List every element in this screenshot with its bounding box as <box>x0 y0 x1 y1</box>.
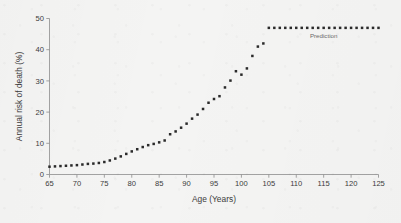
x-tick-label: 85 <box>155 179 163 188</box>
data-point <box>317 27 320 30</box>
data-point <box>377 27 380 30</box>
data-point <box>284 27 287 30</box>
y-tick-label: 30 <box>36 77 44 86</box>
y-axis-title: Annual risk of death (%) <box>14 52 24 142</box>
data-point <box>207 101 210 104</box>
data-point <box>235 70 238 73</box>
data-point <box>54 165 57 168</box>
data-point <box>306 27 309 30</box>
data-point <box>322 27 325 30</box>
data-point <box>295 27 298 30</box>
data-point <box>147 144 150 147</box>
series-annotation-prediction: Prediction <box>310 32 338 39</box>
data-point <box>70 164 73 167</box>
data-point <box>300 27 303 30</box>
data-point <box>224 86 227 89</box>
x-tick-label: 120 <box>345 179 358 188</box>
data-point <box>268 27 271 30</box>
data-point <box>191 117 194 120</box>
data-point <box>120 155 123 158</box>
data-point <box>246 67 249 70</box>
data-point <box>344 27 347 30</box>
chart-figure: 0102030405065707580859095100105110115120… <box>0 0 401 223</box>
data-point <box>131 150 134 153</box>
data-point <box>174 130 177 133</box>
data-point <box>196 113 199 116</box>
x-tick-label: 105 <box>262 179 275 188</box>
data-point <box>163 139 166 142</box>
data-point <box>76 164 79 167</box>
data-point <box>136 148 139 151</box>
x-tick-label: 95 <box>210 179 218 188</box>
data-point <box>311 27 314 30</box>
data-point <box>125 153 128 156</box>
data-point <box>355 27 358 30</box>
data-point <box>202 108 205 111</box>
data-point <box>92 162 95 165</box>
data-point <box>213 98 216 101</box>
data-point <box>152 143 155 146</box>
data-point <box>169 133 172 136</box>
data-point <box>372 27 375 30</box>
data-point <box>240 73 243 76</box>
data-point <box>273 27 276 30</box>
data-point <box>59 165 62 168</box>
y-axis-ticks: 01020304050 <box>36 14 50 179</box>
data-point <box>141 146 144 149</box>
x-tick-label: 65 <box>45 179 53 188</box>
data-point <box>251 55 254 58</box>
data-point <box>279 27 282 30</box>
y-tick-label: 40 <box>36 45 44 54</box>
data-point <box>350 27 353 30</box>
x-axis-ticks: 65707580859095100105110115120125 <box>45 175 385 189</box>
x-tick-label: 90 <box>182 179 190 188</box>
x-tick-label: 80 <box>128 179 136 188</box>
series-observed <box>48 42 264 168</box>
scatter-chart: 0102030405065707580859095100105110115120… <box>0 0 401 223</box>
data-point <box>229 79 232 82</box>
y-tick-label: 20 <box>36 108 44 117</box>
x-tick-label: 75 <box>100 179 108 188</box>
data-point <box>333 27 336 30</box>
x-axis-title: Age (Years) <box>192 194 236 204</box>
data-point <box>328 27 331 30</box>
y-tick-label: 50 <box>36 14 44 23</box>
data-point <box>262 42 265 45</box>
x-tick-label: 115 <box>318 179 330 188</box>
x-tick-label: 100 <box>235 179 248 188</box>
data-point <box>81 163 84 166</box>
data-point <box>218 95 221 98</box>
series-prediction <box>268 27 380 30</box>
data-point <box>339 27 342 30</box>
data-point <box>158 141 161 144</box>
data-point <box>257 45 260 48</box>
y-tick-label: 0 <box>40 170 44 179</box>
data-point <box>366 27 369 30</box>
data-point <box>361 27 364 30</box>
data-point <box>180 126 183 129</box>
data-point <box>87 163 90 166</box>
data-point <box>290 27 293 30</box>
data-point <box>48 165 51 168</box>
x-tick-label: 70 <box>73 179 81 188</box>
data-point <box>109 159 112 162</box>
x-tick-label: 125 <box>372 179 385 188</box>
data-point <box>98 162 101 165</box>
y-tick-label: 10 <box>36 139 44 148</box>
data-point <box>65 165 68 168</box>
data-point <box>103 161 106 164</box>
data-point <box>185 122 188 125</box>
x-tick-label: 110 <box>290 179 302 188</box>
data-point <box>114 157 117 160</box>
